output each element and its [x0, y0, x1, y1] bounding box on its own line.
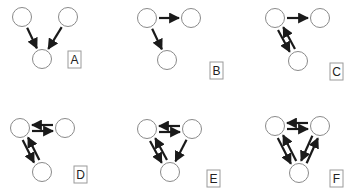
- panel-label: C: [332, 65, 341, 79]
- edge-arrow: [175, 140, 186, 162]
- graph-node: [56, 119, 75, 138]
- edge-arrow: [301, 136, 312, 161]
- edge-arrow: [27, 28, 37, 48]
- panel-label: E: [209, 172, 217, 186]
- graph-node: [183, 120, 202, 139]
- graph-node: [289, 52, 308, 71]
- graph-node: [290, 164, 309, 183]
- graph-node: [311, 117, 330, 136]
- graph-node: [266, 117, 285, 136]
- graph-node: [59, 8, 78, 27]
- graph-node: [161, 163, 180, 182]
- edge-arrow: [48, 27, 61, 49]
- edge-arrow: [155, 138, 167, 160]
- panel-f: F: [266, 117, 344, 188]
- graph-node: [33, 163, 52, 182]
- panel-b: B: [138, 9, 224, 80]
- edge-arrow: [283, 27, 295, 49]
- edge-arrow: [278, 138, 291, 164]
- graph-node: [138, 120, 157, 139]
- edge-arrow: [278, 30, 290, 52]
- edge-arrow: [152, 29, 162, 49]
- panel-a: A: [13, 8, 82, 69]
- graph-node: [138, 9, 157, 28]
- graph-node: [33, 50, 52, 69]
- panel-e: E: [138, 120, 221, 188]
- panel-label: F: [333, 172, 340, 186]
- network-motif-diagram: ABCDEF: [0, 0, 357, 192]
- edge-arrow: [283, 135, 296, 161]
- graph-node: [11, 119, 30, 138]
- edge-arrow: [150, 141, 162, 163]
- panel-c: C: [266, 9, 344, 81]
- panel-d: D: [11, 119, 88, 184]
- graph-node: [13, 8, 32, 27]
- panel-label: A: [70, 53, 78, 67]
- panel-label: D: [76, 168, 85, 182]
- graph-node: [182, 9, 201, 28]
- graph-node: [158, 51, 177, 70]
- panel-label: B: [212, 64, 220, 78]
- edge-arrow: [307, 138, 318, 163]
- graph-node: [266, 9, 285, 28]
- graph-node: [311, 9, 330, 28]
